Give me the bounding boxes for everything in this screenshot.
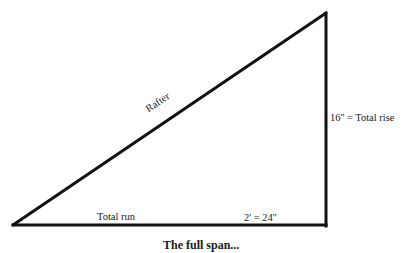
total-run-value: 2' = 24'' [244, 213, 277, 224]
rafter-line [13, 13, 326, 225]
total-run-label: Total run [97, 212, 135, 223]
total-rise-label: 16'' = Total rise [330, 113, 394, 124]
figure-caption: The full span... [163, 238, 239, 253]
